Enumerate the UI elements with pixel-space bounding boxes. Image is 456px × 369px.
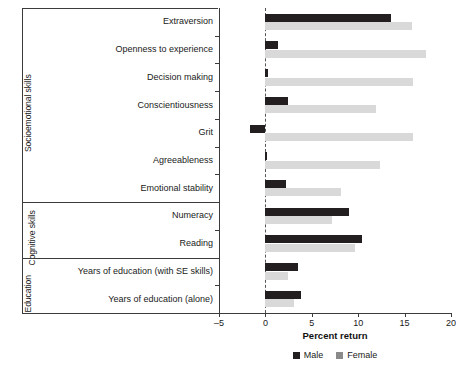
bar-group [219,258,451,286]
group-label-socioemotional-skills: Socioemotional skills [22,16,36,210]
legend-label-female: Female [347,350,377,360]
category-label: Agreeableness [36,155,218,166]
category-label: Reading [36,238,218,249]
x-tick-label: 20 [446,318,456,328]
plot-area [219,8,451,313]
bar-male [265,97,287,105]
bar-female [265,216,332,224]
bar-group [219,8,451,36]
group-bracket-edge [22,202,23,257]
category-label: Grit [36,127,218,138]
bar-group [219,63,451,91]
group-separator [22,202,218,203]
bar-male [265,180,285,188]
bar-male [265,41,278,49]
bar-male [265,69,268,77]
x-tick-label: 5 [309,318,314,328]
bar-female [265,133,413,141]
x-tick [265,313,266,317]
x-tick [312,313,313,317]
bar-female [265,188,340,196]
legend-swatch-male [293,352,300,359]
bar-male [265,208,349,216]
group-separator [22,8,218,9]
bar-female [265,105,375,113]
legend-item-female: Female [336,350,377,360]
category-label: Emotional stability [36,183,218,194]
category-label: Numeracy [36,210,218,221]
bar-female [265,50,426,58]
bar-female [265,22,412,30]
group-bracket-edge [22,258,23,313]
bar-male [265,263,297,271]
category-label: Decision making [36,72,218,83]
bar-female [265,272,287,280]
chart-legend: Male Female [219,350,451,360]
x-tick-label: –5 [214,318,224,328]
x-tick-label: 0 [263,318,268,328]
bar-group [219,147,451,175]
bar-group [219,285,451,313]
x-tick [451,313,452,317]
bar-female [265,299,294,307]
category-label: Conscientiousness [36,100,218,111]
category-label: Openness to experience [36,44,218,55]
x-tick [219,313,220,317]
bar-group [219,119,451,147]
bar-male [265,291,300,299]
group-separator [22,313,218,314]
bar-group [219,174,451,202]
bar-group [219,91,451,119]
x-axis-label: Percent return [219,330,451,341]
category-label: Years of education (with SE skills) [36,266,218,277]
category-label: Years of education (alone) [36,294,218,305]
bar-female [265,78,413,86]
bar-male [265,152,266,160]
bar-male [265,235,362,243]
x-tick-label: 15 [400,318,410,328]
bar-female [265,161,380,169]
bar-chart: Socioemotional skills Cognitive skills E… [0,0,456,369]
category-label: Extraversion [36,16,218,27]
group-bracket-edge [22,8,23,202]
x-axis-line [219,313,451,314]
bar-male [265,14,390,22]
group-separator [22,258,218,259]
x-tick [358,313,359,317]
legend-item-male: Male [293,350,324,360]
bar-male [250,125,266,133]
bar-group [219,230,451,258]
legend-label-male: Male [304,350,324,360]
x-tick [405,313,406,317]
bar-group [219,36,451,64]
bar-female [265,244,355,252]
legend-swatch-female [336,352,343,359]
x-tick-label: 10 [353,318,363,328]
bar-group [219,202,451,230]
